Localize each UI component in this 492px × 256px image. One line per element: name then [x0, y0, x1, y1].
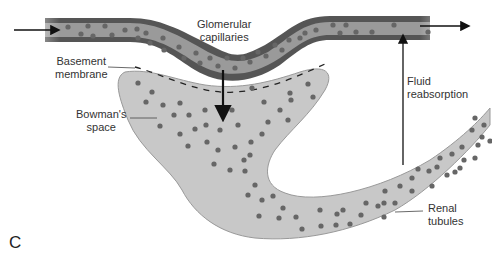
- tubule-leader: [395, 211, 423, 212]
- label-renal-tubules: Renal tubules: [428, 202, 463, 228]
- label-line: reabsorption: [407, 88, 468, 101]
- basement-leader: [108, 67, 135, 68]
- label-line: Renal: [428, 202, 463, 215]
- label-line: space: [76, 121, 126, 134]
- label-line: Glomerular: [197, 18, 251, 31]
- label-fluid-reabsorption: Fluid reabsorption: [407, 75, 468, 101]
- label-line: capillaries: [197, 31, 251, 44]
- label-bowmans-space: Bowman's space: [76, 108, 126, 134]
- label-line: Basement: [55, 55, 108, 68]
- label-line: membrane: [55, 68, 108, 81]
- label-basement-membrane: Basement membrane: [55, 55, 108, 81]
- label-line: Fluid: [407, 75, 468, 88]
- label-glomerular-capillaries: Glomerular capillaries: [197, 18, 251, 44]
- panel-letter: C: [9, 233, 21, 253]
- label-line: tubules: [428, 215, 463, 228]
- label-line: Bowman's: [76, 108, 126, 121]
